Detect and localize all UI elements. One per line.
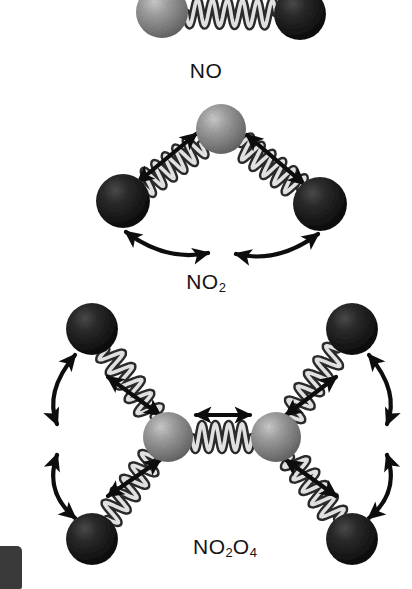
molecule-label-no2o4: NO2O4 (193, 536, 257, 557)
atom-no2o4-n-0 (143, 412, 193, 462)
atom-no2-n-0 (196, 104, 246, 154)
spring-no2-right (241, 137, 305, 193)
atom-no2-o-1 (96, 174, 150, 228)
molecule-label-no: NO (190, 60, 223, 81)
spring-n2o4-central (192, 424, 252, 450)
spring-no2-left (143, 140, 205, 194)
spring-no-bond (186, 0, 276, 26)
atom-no2o4-o-2 (66, 303, 118, 355)
molecule-label-no2: NO2 (186, 271, 226, 292)
scan-edge-artifact (0, 546, 22, 589)
no2-bend-arrow-left (126, 232, 208, 255)
atom-no-o-1 (274, 0, 326, 40)
atom-no2-o-2 (293, 177, 347, 231)
atom-no2o4-o-3 (66, 513, 118, 565)
no2-bend-arrow-right (236, 234, 318, 257)
molecular-vibration-figure: NO NO2 NO2O4 (0, 0, 412, 589)
atom-no2o4-o-4 (326, 303, 378, 355)
molecule-diagram-canvas (0, 0, 412, 589)
n2o4-bend-arrow-left-bottom (53, 455, 75, 518)
n2o4-bend-arrow-right-bottom (369, 455, 391, 518)
atom-no2o4-n-1 (251, 412, 301, 462)
n2o4-bend-arrow-left-top (53, 355, 75, 424)
atom-no-n-0 (136, 0, 188, 38)
atom-no2o4-o-5 (326, 513, 378, 565)
spring-n2o4-bottom-left (105, 453, 156, 523)
n2o4-bend-arrow-right-top (369, 355, 391, 424)
